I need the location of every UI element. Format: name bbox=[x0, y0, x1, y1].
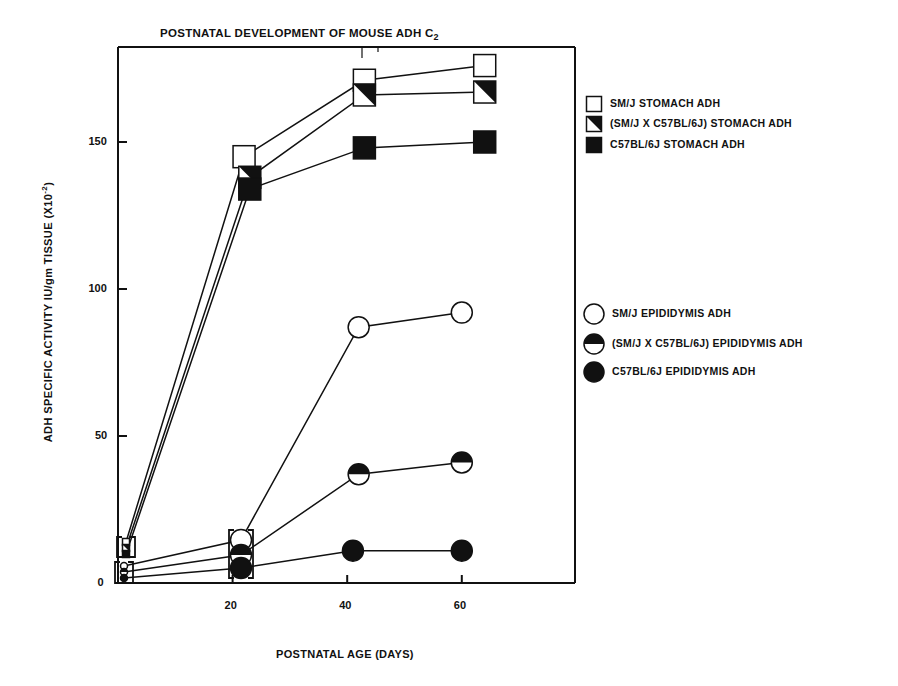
x-tick-label: 40 bbox=[339, 599, 351, 611]
y-tick-label: 150 bbox=[89, 135, 107, 147]
legend-marker-square-half bbox=[587, 117, 602, 132]
legend-marker-circle-open bbox=[584, 304, 604, 324]
y-tick-label: 100 bbox=[89, 282, 107, 294]
legend bbox=[584, 97, 604, 383]
chart-title: POSTNATAL DEVELOPMENT OF MOUSE ADH C2 bbox=[160, 27, 439, 42]
y-axis-label: ADH SPECIFIC ACTIVITY IU/gm TISSUE (X10-… bbox=[40, 182, 54, 442]
legend-label: SM/J EPIDIDYMIS ADH bbox=[612, 307, 731, 319]
data-point-square-open bbox=[233, 146, 255, 168]
data-point-square-open bbox=[474, 55, 496, 77]
data-point-circle-half bbox=[451, 452, 472, 473]
data-point-square-half bbox=[474, 81, 496, 103]
data-point-square-filled bbox=[474, 131, 496, 153]
legend-label: C57BL/6J EPIDIDYMIS ADH bbox=[612, 365, 756, 377]
legend-marker-circle-half bbox=[584, 334, 604, 354]
series-line bbox=[124, 313, 462, 566]
data-point-square-filled bbox=[353, 137, 375, 159]
legend-marker-square-open bbox=[587, 97, 602, 112]
x-tick-label: 20 bbox=[225, 599, 237, 611]
legend-marker-square-filled bbox=[587, 138, 602, 153]
series-line bbox=[124, 462, 462, 572]
x-axis-label: POSTNATAL AGE (DAYS) bbox=[276, 648, 414, 660]
legend-label: SM/J STOMACH ADH bbox=[610, 97, 720, 109]
y-tick-label: 0 bbox=[98, 576, 104, 588]
data-point-square-filled bbox=[239, 178, 261, 200]
data-point-circle-open bbox=[451, 302, 472, 323]
series-markers bbox=[121, 55, 496, 582]
legend-label: (SM/J X C57BL/6J) STOMACH ADH bbox=[610, 117, 792, 129]
series-lines bbox=[124, 66, 485, 578]
data-point-square-filled bbox=[123, 551, 130, 558]
legend-marker-circle-filled bbox=[584, 362, 604, 382]
bracket-left bbox=[117, 537, 122, 557]
data-point-circle-filled bbox=[451, 540, 472, 561]
data-point-square-half bbox=[353, 84, 375, 106]
data-point-circle-half bbox=[348, 464, 369, 485]
series-line bbox=[126, 92, 485, 548]
legend-label: C57BL/6J STOMACH ADH bbox=[610, 138, 745, 150]
data-point-circle-open bbox=[348, 317, 369, 338]
x-tick-label: 60 bbox=[454, 599, 466, 611]
legend-label: (SM/J X C57BL/6J) EPIDIDYMIS ADH bbox=[612, 337, 803, 349]
series-line bbox=[126, 142, 485, 554]
y-tick-label: 50 bbox=[95, 429, 107, 441]
data-point-circle-filled bbox=[231, 558, 252, 579]
data-point-circle-filled bbox=[342, 540, 363, 561]
plot-frame bbox=[118, 47, 575, 583]
data-point-circle-filled bbox=[121, 575, 128, 582]
